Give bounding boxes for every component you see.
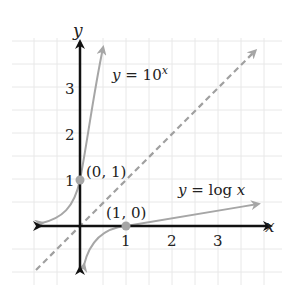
x-tick-3: 3 (213, 232, 223, 250)
point-label-1-0: (1, 0) (106, 204, 146, 222)
graph-canvas: y x 1 2 3 1 2 3 (0, 1) (1, 0) y = 10x y … (0, 0, 287, 292)
point-0-1 (76, 176, 85, 185)
y-tick-1: 1 (65, 172, 75, 190)
point-label-0-1: (0, 1) (86, 163, 126, 181)
y-axis-label: y (72, 20, 83, 40)
function-graph: y x 1 2 3 1 2 3 (0, 1) (1, 0) y = 10x y … (0, 0, 287, 292)
log-curve-label: y = log x (177, 181, 246, 199)
x-tick-2: 2 (167, 232, 177, 250)
y-tick-2: 2 (65, 126, 75, 144)
point-1-0 (122, 222, 131, 231)
y-tick-3: 3 (65, 80, 75, 98)
x-axis-label: x (265, 216, 275, 236)
x-tick-1: 1 (121, 232, 131, 250)
exp-curve-label: y = 10x (111, 64, 169, 84)
